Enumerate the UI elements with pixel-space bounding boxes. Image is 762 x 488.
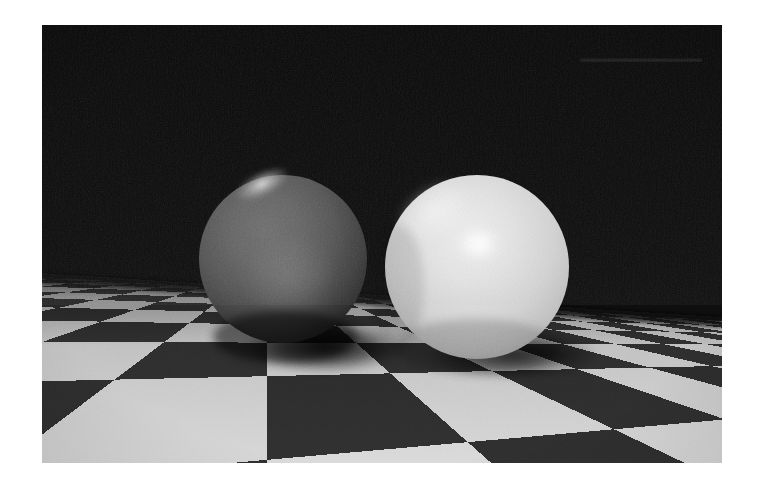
bright-sphere-left-shading: [372, 225, 424, 349]
faint-light-streak: [580, 59, 702, 61]
bright-sphere-specular-highlight: [452, 221, 506, 267]
bright-sphere-base-shading: [395, 319, 559, 375]
rendered-image-frame: [42, 25, 722, 463]
dark-sphere-base-shading: [213, 311, 357, 363]
screenshot-canvas: Checkerboard Floor with Two Spheres Synt…: [0, 0, 762, 488]
dark-sphere-bounce-light: [241, 233, 337, 321]
scene-svg: [42, 25, 722, 463]
